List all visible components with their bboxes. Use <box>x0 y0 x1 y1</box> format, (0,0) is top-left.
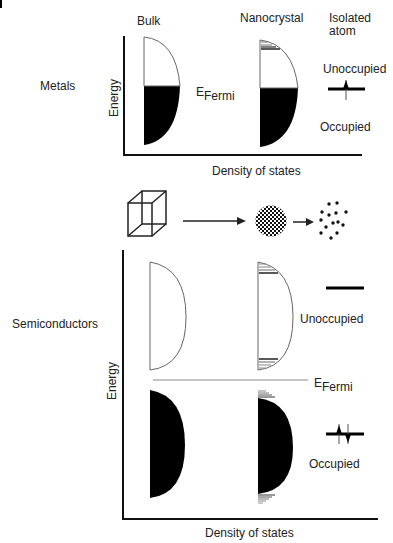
row-label-metals: Metals <box>40 80 75 93</box>
column-label-isolated-atom-line2: atom <box>329 25 356 38</box>
nanocrystal-sphere-icon <box>256 206 287 237</box>
x-axis-label-bottom: Density of states <box>205 527 294 540</box>
nanocrystal-valence-band <box>258 391 293 503</box>
bulk-metal-band <box>144 37 180 145</box>
fermi-E: E <box>314 376 322 390</box>
row-label-semiconductors: Semiconductors <box>12 318 98 331</box>
unoccupied-label-bottom: Unoccupied <box>300 313 363 326</box>
occupied-label-top: Occupied <box>320 121 371 134</box>
fermi-subscript: Fermi <box>322 380 353 394</box>
unoccupied-label-top: Unoccupied <box>323 63 386 76</box>
nanocrystal-conduction-band <box>258 262 293 370</box>
nanocrystal-metal-band <box>260 40 298 147</box>
bulk-valence-band <box>150 390 185 498</box>
column-label-nanocrystal: Nanocrystal <box>240 12 303 25</box>
atom-occupied-level <box>326 424 364 444</box>
y-axis-label-bottom: Energy <box>105 362 119 400</box>
atom-metal-level <box>328 80 365 100</box>
bulk-cube-icon <box>128 191 166 236</box>
arrow-right-icon <box>183 217 246 225</box>
fermi-level-label-top: EFermi <box>196 86 235 99</box>
isolated-atoms-icon <box>319 201 347 239</box>
column-label-bulk: Bulk <box>137 15 160 28</box>
fermi-subscript: Fermi <box>204 89 235 103</box>
bulk-conduction-band <box>150 262 186 370</box>
y-axis-label-top: Energy <box>107 79 121 117</box>
fermi-E: E <box>196 85 204 99</box>
fermi-level-label-bottom: EFermi <box>314 377 353 390</box>
x-axis-label-top: Density of states <box>212 165 301 178</box>
occupied-label-bottom: Occupied <box>309 458 360 471</box>
arrow-right-icon <box>293 218 314 226</box>
